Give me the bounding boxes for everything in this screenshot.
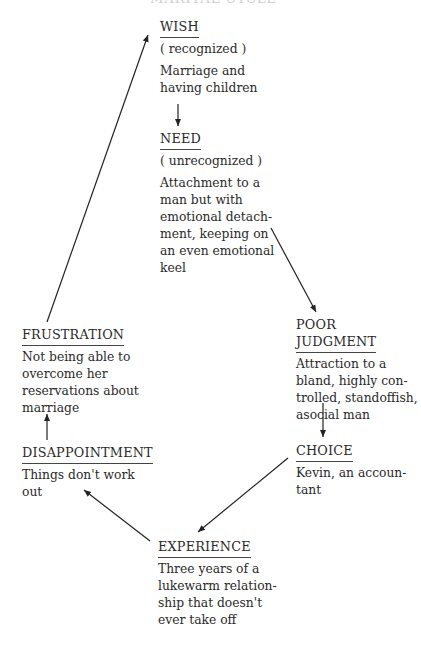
node-desc: having children	[160, 80, 257, 97]
node-need: NEED ( unrecognized ) Attachment to a ma…	[160, 130, 274, 277]
node-desc: reservations about	[22, 383, 139, 400]
node-desc: Attachment to a	[160, 175, 274, 192]
node-label: CHOICE	[296, 442, 353, 462]
node-desc: bland, highly con-	[296, 373, 418, 390]
node-poor-judgment: POOR JUDGMENT Attraction to a bland, hig…	[296, 316, 418, 424]
node-label-line: POOR	[296, 316, 376, 333]
node-desc: lukewarm relation-	[158, 578, 277, 595]
node-desc: asocial man	[296, 407, 418, 424]
arrow-need-to-poor-judgment	[271, 228, 316, 312]
arrow-frustration-to-wish	[47, 35, 148, 322]
node-desc: out	[22, 484, 153, 501]
node-desc: man but with	[160, 192, 274, 209]
node-label: WISH	[160, 18, 199, 38]
node-desc: keel	[160, 260, 274, 277]
node-desc: ship that doesn't	[158, 595, 277, 612]
node-desc: overcome her	[22, 366, 139, 383]
node-desc: Marriage and	[160, 63, 257, 80]
node-desc: trolled, standoffish,	[296, 390, 418, 407]
node-desc: Things don't work	[22, 467, 153, 484]
node-sub: ( recognized )	[160, 41, 257, 58]
node-label: NEED	[160, 130, 201, 150]
node-desc: Not being able to	[22, 349, 139, 366]
node-label: POOR JUDGMENT	[296, 316, 376, 353]
node-label-line: JUDGMENT	[296, 333, 376, 350]
arrow-choice-to-experience	[198, 458, 288, 532]
node-desc: an even emotional	[160, 243, 274, 260]
node-wish: WISH ( recognized ) Marriage and having …	[160, 18, 257, 97]
node-desc: ever take off	[158, 612, 277, 629]
node-label: DISAPPOINTMENT	[22, 444, 153, 464]
node-disappointment: DISAPPOINTMENT Things don't work out	[22, 444, 153, 501]
node-sub: ( unrecognized )	[160, 153, 274, 170]
node-label: FRUSTRATION	[22, 326, 124, 346]
node-desc: tant	[296, 482, 406, 499]
node-label: EXPERIENCE	[158, 538, 251, 558]
node-experience: EXPERIENCE Three years of a lukewarm rel…	[158, 538, 277, 629]
node-desc: Three years of a	[158, 561, 277, 578]
node-choice: CHOICE Kevin, an accoun- tant	[296, 442, 406, 499]
node-desc: Attraction to a	[296, 356, 418, 373]
node-desc: marriage	[22, 400, 139, 417]
node-desc: emotional detach-	[160, 209, 274, 226]
node-desc: ment, keeping on	[160, 226, 274, 243]
node-frustration: FRUSTRATION Not being able to overcome h…	[22, 326, 139, 417]
node-desc: Kevin, an accoun-	[296, 465, 406, 482]
